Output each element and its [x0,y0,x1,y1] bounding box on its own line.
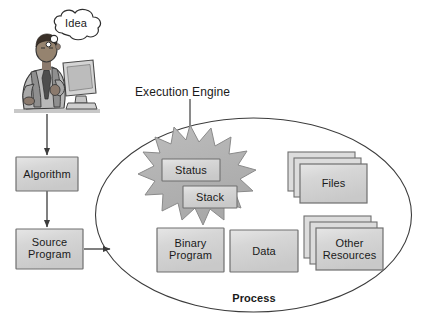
execution-engine-label: Execution Engine [135,86,247,98]
binary-program-label: Binary Program [157,237,224,261]
files-label: Files [300,177,367,189]
process-ellipse [96,118,412,312]
source-program-label: Source Program [16,236,83,260]
process-diagram: Idea Algorithm Source Program Execution … [0,0,430,330]
process-label: Process [216,292,292,304]
programmer-illustration [14,34,100,113]
idea-label: Idea [58,17,94,29]
status-label: Status [162,164,220,176]
other-resources-label: Other Resources [313,237,386,261]
stack-label: Stack [183,191,237,203]
data-label: Data [230,245,298,257]
algorithm-label: Algorithm [16,168,78,180]
